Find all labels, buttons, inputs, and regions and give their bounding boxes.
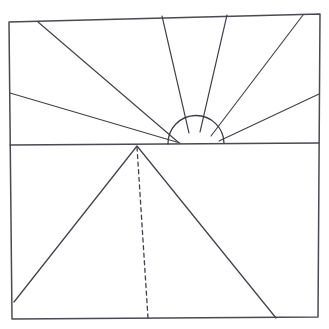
- paper-background: [0, 0, 329, 329]
- line-drawing-canvas: [0, 0, 329, 329]
- sketch-figure: [0, 0, 329, 329]
